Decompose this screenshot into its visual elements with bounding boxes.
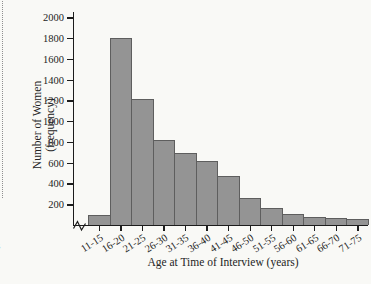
- x-tick: [293, 226, 294, 231]
- histogram-bar-16-20: [110, 38, 133, 225]
- x-tick-label-text: 46-50: [229, 232, 256, 255]
- histogram-bar-46-50: [239, 198, 262, 225]
- axis-break-icon: [72, 219, 88, 232]
- x-tick: [336, 226, 337, 231]
- x-tick: [185, 226, 186, 231]
- histogram-bar-31-35: [174, 153, 197, 225]
- y-tick-label: 400: [22, 178, 64, 189]
- x-tick: [163, 226, 164, 231]
- histogram-bar-36-40: [196, 161, 219, 225]
- y-axis: [73, 12, 74, 225]
- x-tick: [357, 226, 358, 231]
- x-tick: [228, 226, 229, 231]
- x-tick-label-text: 36-40: [186, 232, 213, 255]
- x-tick: [250, 226, 251, 231]
- histogram-bar-61-65: [303, 217, 326, 225]
- y-tick-label: 2000: [22, 12, 64, 23]
- y-tick-label: 1000: [22, 116, 64, 127]
- y-tick-label: 1600: [22, 54, 64, 65]
- histogram-bar-11-15: [88, 215, 111, 225]
- histogram-bar-66-70: [325, 218, 348, 225]
- x-tick-label-text: 71-75: [337, 232, 364, 255]
- y-tick-label: 600: [22, 158, 64, 169]
- x-tick: [142, 226, 143, 231]
- x-axis-title: Age at Time of Interview (years): [78, 256, 368, 268]
- y-tick-label: 1400: [22, 75, 64, 86]
- y-tick-label: 800: [22, 137, 64, 148]
- age-histogram-chart: Number of Women (frequency) 200400600800…: [0, 0, 371, 284]
- x-tick: [271, 226, 272, 231]
- x-tick: [99, 226, 100, 231]
- x-tick: [206, 226, 207, 231]
- y-tick-label: 1200: [22, 95, 64, 106]
- histogram-bar-51-55: [260, 208, 283, 225]
- y-tick-label: 1800: [22, 33, 64, 44]
- x-tick: [314, 226, 315, 231]
- y-tick-label: 200: [22, 199, 64, 210]
- x-tick: [120, 226, 121, 231]
- x-axis: [73, 225, 368, 226]
- histogram-bar-26-30: [153, 140, 176, 225]
- histogram-bar-56-60: [282, 214, 305, 225]
- histogram-bar-41-45: [217, 176, 240, 225]
- histogram-bar-21-25: [131, 99, 154, 225]
